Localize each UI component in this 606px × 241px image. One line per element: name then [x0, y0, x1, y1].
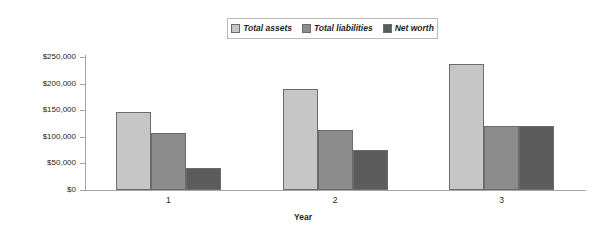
- y-axis-tick-label: $0: [16, 186, 76, 194]
- legend-item-total-liabilities: Total liabilities: [302, 24, 373, 33]
- bar-net-worth-year-2: [353, 150, 388, 190]
- legend-label-total-liabilities: Total liabilities: [314, 24, 373, 33]
- bar-net-worth-year-3: [519, 126, 554, 190]
- bar-total-liabilities-year-2: [318, 130, 353, 190]
- y-axis-tick-label: $200,000: [16, 80, 76, 88]
- bar-chart: Total assets Total liabilities Net worth…: [0, 0, 606, 241]
- bar-total-liabilities-year-1: [151, 133, 186, 190]
- bar-group-year-2: [283, 57, 388, 190]
- chart-legend: Total assets Total liabilities Net worth: [227, 18, 438, 39]
- legend-item-total-assets: Total assets: [231, 24, 292, 33]
- legend-swatch-total-assets: [231, 24, 240, 33]
- x-axis-tick-label: 3: [472, 196, 532, 205]
- x-axis-title: Year: [0, 212, 606, 222]
- legend-item-net-worth: Net worth: [383, 24, 434, 33]
- legend-label-total-assets: Total assets: [243, 24, 292, 33]
- bar-total-assets-year-2: [283, 89, 318, 190]
- y-axis-tick: [80, 190, 85, 191]
- bar-total-assets-year-3: [449, 64, 484, 190]
- bar-total-assets-year-1: [116, 112, 151, 190]
- x-axis-line: [85, 190, 586, 191]
- x-axis-tick-label: 1: [138, 196, 198, 205]
- bar-group-year-1: [116, 57, 221, 190]
- y-axis-tick-label: $150,000: [16, 106, 76, 114]
- bar-group-year-3: [449, 57, 554, 190]
- y-axis-tick-label: $250,000: [16, 53, 76, 61]
- legend-label-net-worth: Net worth: [395, 24, 434, 33]
- y-axis-tick-label: $100,000: [16, 133, 76, 141]
- bar-net-worth-year-1: [186, 168, 221, 190]
- plot-area: [85, 57, 585, 190]
- y-axis-tick-label: $50,000: [16, 159, 76, 167]
- legend-swatch-total-liabilities: [302, 24, 311, 33]
- legend-swatch-net-worth: [383, 24, 392, 33]
- bar-total-liabilities-year-3: [484, 126, 519, 190]
- x-axis-tick-label: 2: [305, 196, 365, 205]
